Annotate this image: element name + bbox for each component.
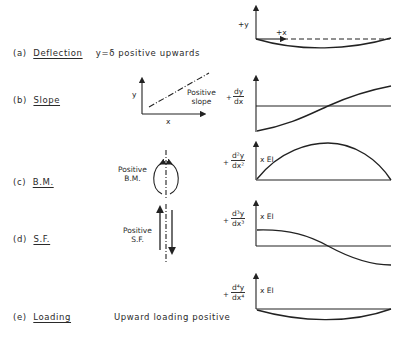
sf-sketch-label: Positive S.F. <box>123 226 152 244</box>
sf-plot <box>256 203 391 265</box>
bm-derivative-label: d²y dx² <box>231 151 245 170</box>
deflection-x-label: +x <box>276 28 287 37</box>
bm-num: d²y <box>231 151 245 161</box>
sf-sketch-label-2: S.F. <box>131 235 144 244</box>
slope-num: dy <box>233 87 244 97</box>
sf-sketch-label-1: Positive <box>123 226 152 235</box>
slope-curve <box>257 86 391 131</box>
loading-plot <box>256 276 391 320</box>
slope-sketch-label: Positive slope <box>187 88 216 106</box>
loading-num: d⁴y <box>231 283 245 293</box>
sf-factor: x EI <box>260 212 274 221</box>
diagram-canvas <box>0 0 411 339</box>
loading-curve <box>257 309 391 320</box>
bm-curve <box>257 143 391 180</box>
bm-plus-sign: + <box>223 159 229 167</box>
bm-sketch-label-2: B.M. <box>124 174 140 183</box>
sf-curve <box>257 230 391 265</box>
slope-sketch-y-label: y <box>132 90 136 99</box>
bm-sketch <box>154 150 179 198</box>
loading-plus-sign: + <box>223 291 229 299</box>
slope-sketch-x-label: x <box>166 117 170 126</box>
loading-derivative-label: d⁴y dx⁴ <box>231 283 245 302</box>
sf-derivative-label: d³y dx³ <box>231 209 245 228</box>
bm-factor: x EI <box>260 155 274 164</box>
slope-sketch-label-1: Positive <box>187 88 216 97</box>
loading-den: dx⁴ <box>231 293 245 302</box>
slope-plus-sign: + <box>226 94 232 102</box>
slope-sketch-label-2: slope <box>191 97 211 106</box>
bm-left-moment-arrow <box>154 163 162 194</box>
sf-den: dx³ <box>231 219 245 228</box>
bm-sketch-label: Positive B.M. <box>118 165 147 183</box>
slope-den: dx <box>233 97 244 106</box>
bm-plot <box>256 143 391 180</box>
sf-plus-sign: + <box>223 217 229 225</box>
bm-den: dx² <box>231 161 245 170</box>
bm-right-moment-arrow <box>170 163 178 194</box>
slope-derivative-label: dy dx <box>233 87 244 106</box>
sf-num: d³y <box>231 209 245 219</box>
sf-sketch <box>160 204 172 262</box>
bm-sketch-label-1: Positive <box>118 165 147 174</box>
loading-factor: x EI <box>260 286 274 295</box>
deflection-y-label: +y <box>238 20 249 29</box>
slope-plot <box>256 78 391 132</box>
